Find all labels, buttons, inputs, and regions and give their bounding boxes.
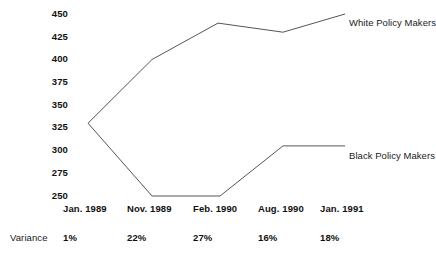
variance-row: Variance 1% 22% 27% 16% 18%	[0, 232, 433, 248]
x-axis: Jan. 1989 Nov. 1989 Feb. 1990 Aug. 1990 …	[0, 203, 433, 219]
variance-value-feb-1990: 27%	[193, 232, 212, 244]
x-axis-tick-jan-1991: Jan. 1991	[320, 203, 364, 215]
variance-value-aug-1990: 16%	[258, 232, 277, 244]
series-line-black-policy-makers	[88, 123, 345, 196]
variance-value-jan-1991: 18%	[320, 232, 339, 244]
series-label-black-policy-makers: Black Policy Makers	[349, 150, 435, 161]
series-line-white-policy-makers	[88, 14, 345, 123]
variance-value-nov-1989: 22%	[127, 232, 146, 244]
x-axis-tick-nov-1989: Nov. 1989	[127, 203, 172, 215]
x-axis-tick-feb-1990: Feb. 1990	[193, 203, 237, 215]
variance-caption: Variance	[10, 232, 48, 244]
x-axis-tick-jan-1989: Jan. 1989	[63, 203, 107, 215]
series-label-white-policy-makers: White Policy Makers	[349, 17, 436, 28]
x-axis-tick-aug-1990: Aug. 1990	[258, 203, 304, 215]
variance-value-jan-1989: 1%	[63, 232, 77, 244]
